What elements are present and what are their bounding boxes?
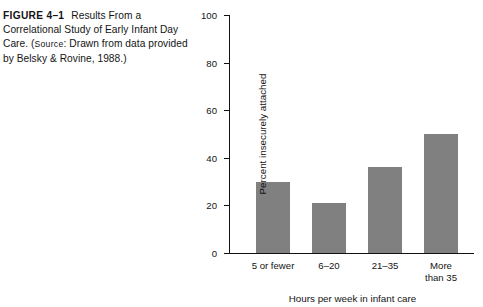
caption-source-label: Source [35, 39, 64, 49]
bar-2 [368, 167, 402, 253]
figure-caption: FIGURE 4–1Results From a Correlational S… [3, 9, 189, 66]
bar-chart: 100 80 60 40 20 0 5 or fewer [196, 0, 483, 307]
figure-number: FIGURE 4–1 [3, 10, 64, 21]
bar-3 [424, 134, 458, 253]
y-axis-line [229, 15, 230, 254]
y-tick-label-60: 60 [206, 105, 217, 116]
y-tick-label-0: 0 [212, 248, 217, 259]
y-tick-40 [224, 158, 229, 159]
y-tick-60 [224, 110, 229, 111]
y-tick-label-100: 100 [201, 10, 217, 21]
x-tick-label-2: 21–35 [372, 260, 399, 272]
y-tick-80 [224, 63, 229, 64]
y-tick-label-80: 80 [206, 57, 217, 68]
y-tick-100 [224, 15, 229, 16]
y-tick-0 [224, 253, 229, 254]
x-tick-label-0: 5 or fewer [252, 260, 295, 272]
x-axis-line [229, 253, 474, 254]
x-axis-title: Hours per week in infant care [229, 293, 476, 304]
y-tick-label-40: 40 [206, 152, 217, 163]
x-tick-label-1: 6–20 [318, 260, 339, 272]
bar-1 [312, 203, 346, 253]
x-tick-label-3: More than 35 [425, 260, 457, 283]
figure-page: FIGURE 4–1Results From a Correlational S… [0, 0, 483, 307]
plot-area: 100 80 60 40 20 0 5 or fewer [229, 15, 476, 253]
y-axis-title: Percent insecurely attached [257, 74, 268, 195]
y-tick-20 [224, 205, 229, 206]
y-tick-label-20: 20 [206, 200, 217, 211]
